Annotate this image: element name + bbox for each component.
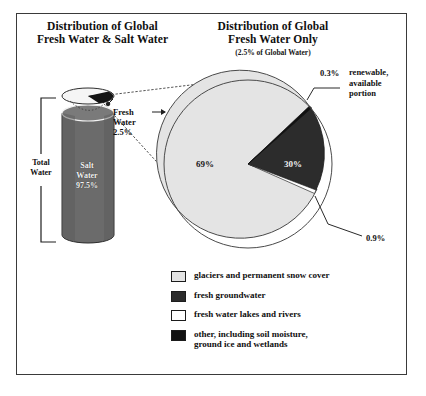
- left-chart-title-line2: Fresh Water & Salt Water: [20, 33, 185, 46]
- renewable-line1: renewable,: [349, 67, 388, 77]
- total-water-label-line2: Water: [30, 168, 51, 177]
- legend-swatch-other: [171, 330, 186, 341]
- legend-label-glaciers-line1: glaciers and permanent snow cover: [194, 270, 329, 280]
- legend-item-lakes-rivers: fresh water lakes and rivers: [171, 309, 396, 321]
- pie-label-glaciers: 69%: [196, 159, 214, 169]
- left-chart-title-line1: Distribution of Global: [47, 20, 158, 32]
- right-chart-title: Distribution of Global Fresh Water Only: [188, 20, 358, 46]
- pie-label-lakes-rivers-pct: 0.9%: [366, 233, 385, 243]
- left-chart-title: Distribution of Global Fresh Water & Sal…: [20, 20, 185, 46]
- salt-water-label: Salt Water 97.5%: [58, 161, 116, 191]
- salt-water-value: 97.5%: [76, 181, 98, 190]
- fresh-water-value: 2.5%: [113, 127, 132, 137]
- legend-item-glaciers: glaciers and permanent snow cover: [171, 270, 396, 282]
- legend-label-other-line2: ground ice and wetlands: [194, 339, 308, 350]
- fresh-water-label: Fresh Water 2.5%: [113, 107, 159, 137]
- right-chart-title-line2: Fresh Water Only: [188, 33, 358, 46]
- legend-swatch-glaciers: [171, 271, 186, 282]
- renewable-line3: portion: [349, 88, 376, 98]
- legend-item-other: other, including soil moisture, ground i…: [171, 329, 396, 350]
- right-chart-subtitle: (2.5% of Global Water): [188, 48, 358, 57]
- figure-root: Distribution of Global Fresh Water & Sal…: [0, 0, 426, 396]
- legend-label-other-line1: other, including soil moisture,: [194, 329, 308, 339]
- legend-label-lakes-rivers: fresh water lakes and rivers: [194, 309, 301, 320]
- right-chart-title-line1: Distribution of Global: [218, 20, 329, 32]
- legend-swatch-lakes-rivers: [171, 310, 186, 321]
- legend-label-lakes-rivers-line1: fresh water lakes and rivers: [194, 309, 301, 319]
- pie-label-groundwater: 30%: [284, 159, 302, 169]
- legend: glaciers and permanent snow cover fresh …: [171, 270, 396, 357]
- fresh-water-label-line2: Water: [113, 117, 136, 127]
- legend-label-glaciers: glaciers and permanent snow cover: [194, 270, 329, 281]
- pie-label-renewable-pct: 0.3%: [320, 68, 339, 78]
- salt-water-label-line2: Water: [76, 171, 97, 180]
- legend-label-groundwater: fresh groundwater: [194, 290, 265, 301]
- pie-label-renewable-text: renewable, available portion: [349, 67, 411, 99]
- legend-item-groundwater: fresh groundwater: [171, 290, 396, 302]
- fresh-water-label-line1: Fresh: [113, 107, 134, 117]
- renewable-line2: available: [349, 78, 382, 88]
- legend-swatch-groundwater: [171, 291, 186, 302]
- legend-label-other: other, including soil moisture, ground i…: [194, 329, 308, 350]
- total-water-label-line1: Total: [32, 158, 50, 167]
- salt-water-label-line1: Salt: [80, 161, 93, 170]
- legend-label-groundwater-line1: fresh groundwater: [194, 290, 265, 300]
- total-water-label: Total Water: [26, 158, 56, 177]
